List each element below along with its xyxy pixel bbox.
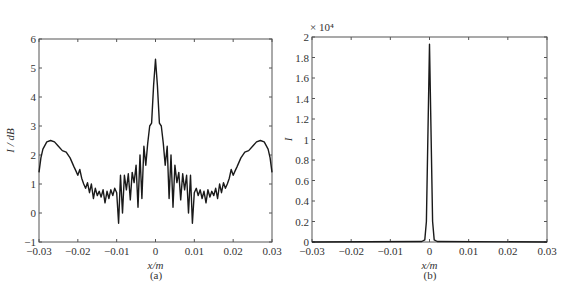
x-tick-label: −0.02 <box>338 245 363 257</box>
caption-b: (b) <box>424 269 437 282</box>
x-tick-label: −0.01 <box>378 245 403 257</box>
data-line <box>39 59 272 223</box>
chart-panel-b: −0.03−0.02−0.0100.010.020.0300.20.40.60.… <box>282 21 557 271</box>
plot-frame <box>39 39 272 242</box>
y-tick-label: 1.8 <box>295 52 309 64</box>
x-tick-label: 0.02 <box>224 245 243 257</box>
x-tick-label: 0.01 <box>185 245 204 257</box>
y-tick-label: 1.2 <box>295 113 309 125</box>
y-tick-label: 4 <box>31 91 37 103</box>
x-tick-label: 0.03 <box>262 245 282 257</box>
y-tick-label: 1.6 <box>295 72 309 84</box>
y-tick-label: 2 <box>31 149 37 161</box>
y-tick-label: 5 <box>31 62 37 74</box>
y-tick-label: 0.6 <box>295 175 309 187</box>
y-tick-label: 0 <box>304 236 310 248</box>
y-tick-label: 0.4 <box>295 195 309 207</box>
y-tick-label: 1.4 <box>295 93 309 105</box>
y-tick-label: 1 <box>31 178 37 190</box>
y-tick-label: 0.8 <box>295 154 309 166</box>
y-tick-label: 2 <box>304 31 310 43</box>
y-tick-label: 6 <box>31 33 37 45</box>
x-tick-label: 0.03 <box>537 245 557 257</box>
y-tick-label: 0.2 <box>295 216 309 228</box>
x-tick-label: 0 <box>427 245 433 257</box>
x-tick-label: −0.01 <box>104 245 129 257</box>
x-tick-label: 0.02 <box>498 245 517 257</box>
caption-a: (a) <box>150 269 163 282</box>
x-tick-label: 0 <box>153 245 159 257</box>
data-line <box>312 44 547 242</box>
x-tick-label: −0.02 <box>65 245 90 257</box>
chart-panel-a: −0.03−0.02−0.0100.010.020.03−10123456x/m… <box>4 33 282 271</box>
y-axis-label: I / dB <box>4 128 16 154</box>
y-multiplier-label: × 10⁴ <box>310 21 334 33</box>
y-axis-label: I <box>282 136 294 142</box>
figure: −0.03−0.02−0.0100.010.020.03−10123456x/m… <box>0 0 575 296</box>
y-tick-label: −1 <box>24 236 36 248</box>
x-tick-label: 0.01 <box>459 245 478 257</box>
y-tick-label: 0 <box>31 207 37 219</box>
y-tick-label: 1 <box>304 134 310 146</box>
y-tick-label: 3 <box>31 120 37 132</box>
